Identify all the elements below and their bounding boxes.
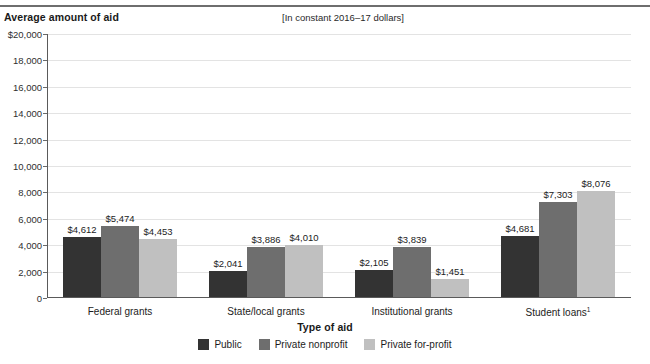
bar bbox=[285, 245, 323, 298]
bar bbox=[209, 271, 247, 298]
legend-label: Private nonprofit bbox=[275, 339, 348, 350]
y-axis-tick bbox=[43, 298, 47, 299]
bar-value-label: $5,474 bbox=[105, 213, 134, 224]
top-divider bbox=[0, 5, 650, 7]
bar bbox=[101, 226, 139, 298]
bar bbox=[247, 247, 285, 298]
x-axis-category-label: Institutional grants bbox=[371, 306, 452, 317]
legend-swatch-icon bbox=[364, 339, 375, 350]
bar-value-label: $3,839 bbox=[397, 234, 426, 245]
chart-legend: PublicPrivate nonprofitPrivate for-profi… bbox=[0, 339, 650, 350]
gridline bbox=[47, 60, 631, 61]
bar-value-label: $8,076 bbox=[581, 178, 610, 189]
x-axis-category-label: Federal grants bbox=[88, 306, 152, 317]
bar bbox=[501, 236, 539, 298]
bar bbox=[63, 237, 101, 298]
y-axis-tick-label: 10,000 bbox=[0, 161, 42, 172]
x-axis-category-label: Student loans1 bbox=[526, 306, 591, 318]
legend-label: Public bbox=[214, 339, 241, 350]
y-axis-tick-label: 6,000 bbox=[0, 213, 42, 224]
bar bbox=[577, 191, 615, 298]
bar-value-label: $4,681 bbox=[505, 223, 534, 234]
gridline bbox=[47, 140, 631, 141]
x-axis-category-label: State/local grants bbox=[227, 306, 304, 317]
y-axis-tick-label: 18,000 bbox=[0, 55, 42, 66]
y-axis-tick-label: 16,000 bbox=[0, 81, 42, 92]
bar bbox=[355, 270, 393, 298]
y-axis-tick-label: 14,000 bbox=[0, 108, 42, 119]
legend-label: Private for-profit bbox=[380, 339, 451, 350]
bar-value-label: $4,010 bbox=[289, 232, 318, 243]
bar-value-label: $2,105 bbox=[359, 257, 388, 268]
bar-value-label: $1,451 bbox=[435, 266, 464, 277]
legend-swatch-icon bbox=[259, 339, 270, 350]
gridline bbox=[47, 166, 631, 167]
y-axis-title: Average amount of aid bbox=[4, 11, 119, 23]
y-axis-tick-label: 4,000 bbox=[0, 240, 42, 251]
y-axis-tick-label: 12,000 bbox=[0, 134, 42, 145]
bar-value-label: $7,303 bbox=[543, 189, 572, 200]
y-axis-tick-label: 8,000 bbox=[0, 187, 42, 198]
bar-value-label: $3,886 bbox=[251, 234, 280, 245]
bar bbox=[431, 279, 469, 298]
legend-item[interactable]: Private nonprofit bbox=[259, 339, 348, 350]
bar bbox=[139, 239, 177, 298]
legend-swatch-icon bbox=[198, 339, 209, 350]
legend-item[interactable]: Public bbox=[198, 339, 241, 350]
bar-value-label: $4,612 bbox=[67, 224, 96, 235]
x-axis-title: Type of aid bbox=[0, 321, 650, 333]
bar bbox=[393, 247, 431, 298]
x-axis-line bbox=[47, 297, 631, 298]
chart-plot-area: $4,612$5,474$4,453$2,041$3,886$4,010$2,1… bbox=[47, 34, 631, 298]
gridline bbox=[47, 87, 631, 88]
units-note: [In constant 2016–17 dollars] bbox=[282, 12, 404, 23]
bar-value-label: $4,453 bbox=[143, 226, 172, 237]
bar bbox=[539, 202, 577, 298]
bar-value-label: $2,041 bbox=[213, 258, 242, 269]
gridline bbox=[47, 113, 631, 114]
legend-item[interactable]: Private for-profit bbox=[364, 339, 451, 350]
y-axis-tick-label: 2,000 bbox=[0, 266, 42, 277]
gridline bbox=[47, 34, 631, 35]
y-axis-tick-label: 0 bbox=[0, 293, 42, 304]
y-axis-tick-label: $20,000 bbox=[0, 29, 42, 40]
y-axis-line bbox=[47, 34, 48, 298]
